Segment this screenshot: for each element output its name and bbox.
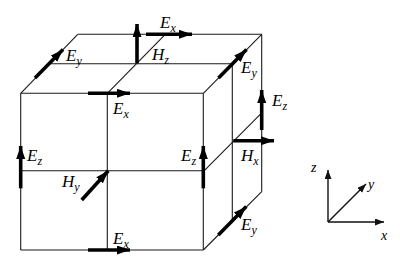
Ey-label-top-right: Ey	[240, 58, 257, 80]
Ez-label-front-right: Ez	[180, 146, 196, 168]
y-axis-label: y	[366, 177, 375, 192]
Ez-label-back-right: Ez	[271, 91, 287, 113]
Ey-label-bottom-right: Ey	[240, 215, 257, 237]
cube-edges	[21, 34, 262, 250]
x-axis-label: x	[380, 228, 388, 243]
Ex-label-back-top: Ex	[159, 13, 176, 35]
yee-cell-diagram: Ex Hz Ey Ey Ex Ez Ez Ez Hx Hy Ex Ey z y …	[0, 0, 400, 264]
Ex-label-front-top: Ex	[112, 99, 129, 121]
Hx-label: Hx	[240, 146, 259, 168]
yee-cell-figure: Ex Hz Ey Ey Ex Ez Ez Ez Hx Hy Ex Ey z y …	[0, 0, 400, 264]
Ez-label-front-left: Ez	[26, 146, 42, 168]
field-arrows	[21, 24, 274, 250]
z-axis-label: z	[310, 160, 317, 175]
Ex-label-front-bottom: Ex	[112, 229, 129, 251]
y-axis-arrow	[328, 184, 366, 222]
Hz-label: Hz	[151, 45, 169, 67]
coordinate-axes: z y x	[310, 160, 388, 243]
cube-midlines	[21, 34, 262, 250]
Hy-arrow-front-face-center	[82, 171, 109, 200]
Ey-label-top-left: Ey	[65, 46, 82, 68]
Hy-label: Hy	[61, 172, 80, 194]
